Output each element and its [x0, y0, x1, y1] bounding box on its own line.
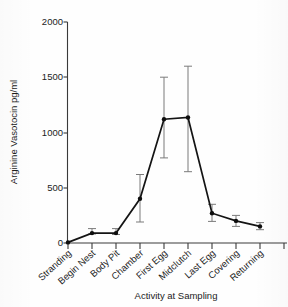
y-axis-ticks — [64, 22, 68, 243]
data-point-returning — [258, 224, 262, 228]
y-tick-label-1000: 1000 — [42, 127, 63, 138]
data-point-stranding — [66, 240, 70, 244]
chart-figure: Arginine Vasotocin pg/ml 2000 1500 1000 … — [0, 0, 288, 307]
data-point-covering — [234, 219, 238, 223]
x-axis-ticks — [68, 243, 284, 249]
y-tick-label-1500: 1500 — [42, 71, 63, 82]
y-axis-title: Arginine Vasotocin pg/ml — [8, 80, 19, 184]
error-bars — [88, 66, 264, 234]
y-tick-label-500: 500 — [47, 182, 63, 193]
y-tick-label-0: 0 — [58, 237, 63, 248]
x-axis-title: Activity at Sampling — [135, 290, 218, 301]
data-point-body-pit — [114, 231, 118, 235]
data-point-chamber — [138, 197, 142, 201]
data-point-midclutch — [186, 115, 190, 119]
y-tick-label-2000: 2000 — [42, 16, 63, 27]
x-tick-labels: Stranding Begin Nest Body Pit Chamber Fi… — [36, 247, 266, 287]
line-chart-svg: Arginine Vasotocin pg/ml 2000 1500 1000 … — [0, 0, 288, 307]
data-point-first-egg — [162, 117, 166, 121]
data-point-begin-nest — [90, 231, 94, 235]
chart-canvas: Arginine Vasotocin pg/ml 2000 1500 1000 … — [0, 0, 288, 307]
y-tick-labels: 2000 1500 1000 500 0 — [42, 16, 63, 248]
data-point-last-egg — [210, 211, 214, 215]
